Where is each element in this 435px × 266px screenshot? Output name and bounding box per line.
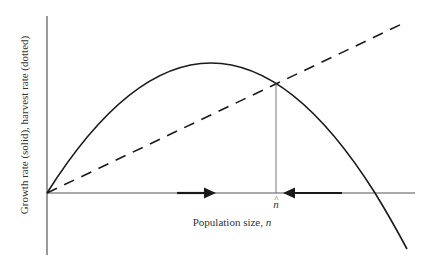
harvest-model-diagram: n ^ Population size, n Growth rate (soli… [0, 0, 435, 266]
arrow-left-icon [283, 188, 342, 199]
x-axis-label: Population size, n [193, 216, 272, 228]
harvest-rate-line [47, 22, 406, 193]
y-axis-label: Growth rate (solid), harvest rate (dotte… [18, 35, 31, 214]
arrow-right-icon [177, 188, 216, 199]
equilibrium-hat: ^ [275, 195, 279, 204]
